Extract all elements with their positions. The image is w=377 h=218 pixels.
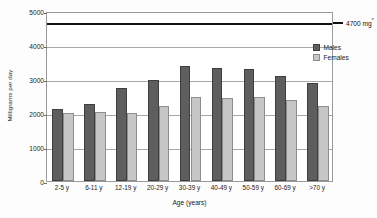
bar-females bbox=[191, 97, 202, 181]
y-axis-tick-label: 2000 bbox=[16, 111, 44, 118]
reference-line-label: 4700 mg* bbox=[346, 18, 374, 27]
bar-males bbox=[212, 68, 223, 181]
y-axis-tick-labels: 010002000300040005000 bbox=[14, 0, 44, 218]
bar-males bbox=[148, 80, 159, 181]
legend-swatch-females-icon bbox=[313, 54, 320, 61]
bar-females bbox=[159, 106, 170, 181]
bar-females bbox=[318, 106, 329, 181]
plot-area bbox=[46, 12, 333, 182]
y-axis-tick-label: 3000 bbox=[16, 77, 44, 84]
x-axis-tick-label: 50-59 y bbox=[243, 184, 264, 191]
bar-females bbox=[95, 112, 106, 181]
bar-females bbox=[254, 97, 265, 181]
x-axis-title: Age (years) bbox=[46, 199, 333, 206]
bar-males bbox=[180, 66, 191, 181]
bar-males bbox=[275, 76, 286, 181]
bar-males bbox=[244, 69, 255, 181]
x-axis-tick-label: 30-39 y bbox=[179, 184, 200, 191]
x-axis-tick-label: 2-5 y bbox=[55, 184, 69, 191]
chart-figure: Milligrams per day 010002000300040005000… bbox=[0, 0, 377, 218]
y-axis-tick-label: 0 bbox=[16, 179, 44, 186]
y-axis-tick-label: 1000 bbox=[16, 145, 44, 152]
reference-line-label-text: 4700 mg bbox=[346, 20, 372, 27]
bar-males bbox=[52, 109, 63, 181]
legend-label-females: Females bbox=[324, 54, 349, 61]
bar-males bbox=[116, 88, 127, 182]
bar-males bbox=[307, 83, 318, 181]
x-axis-tick-label: >70 y bbox=[309, 184, 325, 191]
x-axis-tick-label: 20-29 y bbox=[147, 184, 168, 191]
x-axis-tick-label: 12-19 y bbox=[115, 184, 136, 191]
bar-males bbox=[84, 104, 95, 181]
legend-label-males: Males bbox=[324, 44, 342, 51]
bar-females bbox=[222, 98, 233, 181]
legend-item-females: Females bbox=[313, 54, 375, 61]
y-axis-tick-label: 5000 bbox=[16, 9, 44, 16]
bar-females bbox=[127, 113, 138, 181]
bar-females bbox=[63, 113, 74, 181]
x-axis-tick-labels: 2-5 y6-11 y12-19 y20-29 y30-39 y40-49 y5… bbox=[46, 184, 333, 198]
x-axis-tick-label: 40-49 y bbox=[211, 184, 232, 191]
y-axis-tick-label: 4000 bbox=[16, 43, 44, 50]
reference-line-superscript: * bbox=[372, 18, 374, 24]
legend-item-males: Males bbox=[313, 44, 375, 51]
legend-swatch-males-icon bbox=[313, 44, 320, 51]
chart-legend: Males Females bbox=[313, 44, 375, 64]
reference-line bbox=[47, 23, 332, 25]
x-axis-tick-label: 60-69 y bbox=[274, 184, 295, 191]
y-axis-title-text: Milligrams per day bbox=[6, 69, 13, 121]
reference-line-extension bbox=[333, 22, 343, 24]
bar-series-container bbox=[47, 13, 332, 181]
bar-females bbox=[286, 100, 297, 181]
x-axis-tick-label: 6-11 y bbox=[85, 184, 102, 191]
